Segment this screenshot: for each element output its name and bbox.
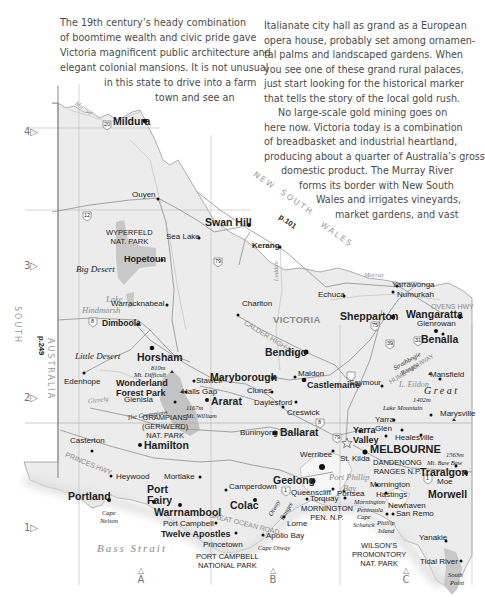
label-dandenong-park: DANDENONGRANGES N.P.: [373, 458, 422, 476]
label-murray-river: Murray: [364, 272, 384, 279]
label-big-desert: Big Desert: [76, 265, 115, 274]
city-portland: Portland: [68, 491, 111, 502]
label-mt-william-height: 1167m: [186, 405, 203, 412]
label-grampians-park: GRAMPIANS(GERIWERD)NAT. PARK: [142, 413, 188, 440]
city-hastings: Hastings: [376, 491, 407, 499]
label-point: Point: [450, 580, 464, 587]
city-maldon: Maldon: [298, 370, 324, 378]
city-dimboola: Dimboola: [102, 319, 141, 328]
city-colac: Colac: [230, 500, 259, 511]
label-cape-otway: Cape Otway: [258, 545, 290, 552]
city-clunes: Clunes: [247, 387, 272, 395]
label-island: Island: [378, 528, 394, 535]
label-mt-william: Mt. William: [186, 413, 217, 420]
city-mansfield: Mansfield: [430, 371, 464, 379]
city-warracknabeal: Warracknabeal: [111, 300, 165, 308]
city-traralgon: Traralgon: [420, 467, 468, 478]
city-tidal-river: Tidal River: [420, 558, 458, 566]
city-ouyen: Ouyen: [132, 191, 156, 199]
city-warrnambool: Warrnambool: [154, 507, 221, 518]
label-bass-strait: Bass Strait: [97, 543, 167, 554]
city-hopetoun: Hopetoun: [124, 255, 166, 264]
city-ballarat: Ballarat: [280, 427, 319, 438]
city-kerang: Kerang: [252, 242, 280, 250]
label-great-dividing: Great: [424, 386, 459, 396]
city-marysville: Marysville: [440, 410, 476, 418]
city-sea-lake: Sea Lake: [166, 233, 200, 241]
label-mt-baw-baw-height: 1563m: [446, 452, 464, 459]
label-mornington-peninsula: Mornington: [354, 499, 385, 506]
shield-8-east: 8: [318, 420, 321, 426]
sa-page-ref: p.249: [38, 336, 46, 355]
label-victoria: VICTORIA: [273, 315, 321, 325]
label-south: South: [448, 572, 463, 579]
city-bendigo: Bendigo: [265, 347, 307, 358]
shield-79: 79: [215, 259, 221, 265]
city-port-fairy: PortFairy: [147, 484, 172, 506]
city-lorne: Lorne: [287, 520, 307, 528]
label-port-phillip: Port Phillip: [329, 473, 369, 482]
city-stawell: Stawell: [196, 377, 222, 385]
shield-20: 20: [104, 122, 110, 128]
city-healesville: Healesville: [395, 434, 434, 442]
city-seymour: Seymour: [349, 379, 381, 387]
label-mornington-park: MORNINGTONPEN. N.P.: [301, 504, 353, 522]
label-lake-mountain-height: 1402m: [413, 397, 431, 404]
city-echuca: Echuca: [318, 291, 345, 299]
city-yarrawonga: Yarrawonga: [392, 281, 435, 289]
city-moe: Moe: [437, 478, 453, 486]
city-werribee: Werribee: [300, 451, 332, 459]
label-cape: Cape: [102, 510, 116, 517]
label-lake-mountain: Lake Mountain: [383, 405, 423, 412]
label-sa-south: SOUTH: [13, 306, 22, 344]
city-morwell: Morwell: [428, 489, 467, 500]
city-swan-hill: Swan Hill: [205, 217, 252, 228]
grid-row-2: 2▷: [24, 392, 38, 403]
city-geelong: Geelong: [273, 475, 315, 486]
city-buninyong: Buninyong: [240, 429, 278, 437]
city-portsea: Portsea: [337, 490, 365, 498]
city-apollo-bay: Apollo Bay: [266, 532, 304, 540]
shield-79-south: 79: [334, 435, 340, 441]
shield-1-west: 1: [284, 488, 287, 494]
city-creswick: Creswick: [287, 409, 319, 417]
label-cape-schanck: Cape: [357, 514, 371, 521]
city-melbourne: MELBOURNE: [370, 444, 441, 455]
city-hamilton: Hamilton: [144, 440, 189, 451]
city-casterton: Casterton: [70, 437, 105, 445]
label-mt-difficult: Mt. Difficult: [134, 372, 166, 379]
label-sa-australia: AUSTRALIA: [46, 338, 55, 400]
city-horsham: Horsham: [137, 352, 183, 363]
grid-col-a: △A: [135, 565, 147, 584]
city-mornington: Mornington: [370, 481, 410, 489]
city-twelve-apostles: Twelve Apostles: [161, 530, 231, 539]
label-nelson: Nelson: [100, 518, 118, 525]
city-ararat: Ararat: [211, 396, 242, 407]
label-schanck: Schanck: [353, 522, 375, 529]
city-mortlake: Mortlake: [164, 473, 195, 481]
shield-39: 39: [387, 341, 393, 347]
city-san-remo: San Remo: [396, 510, 434, 518]
city-yarra-valley: YarraValley: [353, 425, 379, 445]
city-yanakie: Yanakie: [419, 534, 447, 542]
city-glenisla: Glenisla: [124, 396, 153, 404]
label-wyperfeld-park: WYPERFELDNAT. PARK: [106, 228, 153, 246]
grid-row-4: 4▷: [24, 126, 38, 137]
grid-row-1: 1▷: [24, 522, 38, 533]
label-wilsons-promontory-park: WILSON’SPROMONTORYNAT. PARK: [352, 541, 406, 568]
grid-col-b: △B: [267, 565, 279, 584]
city-st-kilda: St. Kilda: [340, 455, 370, 463]
label-little-desert: Little Desert: [75, 352, 120, 361]
city-camperdown: Camperdown: [229, 483, 277, 491]
label-port-campbell-park: PORT CAMPBELLNATIONAL PARK: [196, 552, 259, 570]
city-port-campbell: Port Campbell: [163, 520, 214, 528]
grid-row-3: 3▷: [24, 260, 38, 271]
shield-8: 8: [91, 319, 94, 325]
city-numurkah: Numurkah: [397, 291, 434, 299]
shield-75: 75: [372, 323, 378, 329]
city-charlton: Charlton: [242, 300, 272, 308]
city-mildura: Mildura: [113, 116, 150, 127]
city-heywood: Heywood: [116, 473, 149, 481]
city-glenrowan: Glenrowan: [417, 320, 456, 328]
label-phillip: Phillip: [377, 520, 395, 527]
